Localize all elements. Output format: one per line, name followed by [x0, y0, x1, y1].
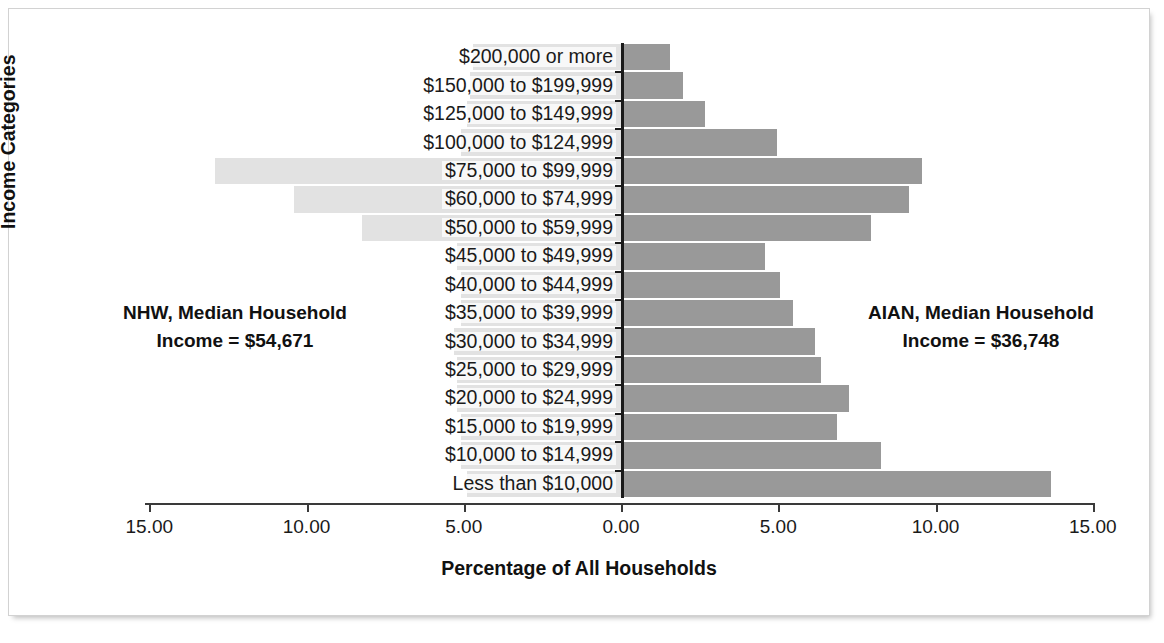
- bar-row: [145, 470, 1095, 498]
- bar-row: [145, 214, 1095, 242]
- y-axis-title: Income Categories: [0, 0, 20, 229]
- category-label: Less than $10,000: [450, 474, 616, 494]
- annotation-nhw-line2: Income = $54,671: [85, 327, 385, 355]
- category-tick: [615, 327, 622, 329]
- annotation-aian-line2: Income = $36,748: [831, 327, 1131, 355]
- category-tick: [615, 185, 622, 187]
- bar-aian: [623, 300, 793, 326]
- bar-row: [145, 413, 1095, 441]
- category-tick: [615, 157, 622, 159]
- bar-row: [145, 384, 1095, 412]
- bar-aian: [623, 72, 683, 98]
- x-tick-label: 10.00: [283, 516, 331, 538]
- bar-row: [145, 43, 1095, 71]
- bar-row: [145, 356, 1095, 384]
- x-tick: [621, 503, 623, 512]
- x-tick: [936, 503, 938, 512]
- bar-row: [145, 128, 1095, 156]
- category-label: $75,000 to $99,999: [442, 161, 616, 181]
- category-label: $45,000 to $49,999: [442, 246, 616, 266]
- category-label: $200,000 or more: [456, 47, 616, 67]
- category-tick: [615, 384, 622, 386]
- bar-aian: [623, 158, 922, 184]
- category-label: $40,000 to $44,999: [442, 275, 616, 295]
- bar-aian: [623, 243, 765, 269]
- x-axis-line: [145, 503, 1095, 505]
- x-tick-label: 15.00: [1069, 516, 1117, 538]
- bar-aian: [623, 385, 849, 411]
- category-label: $25,000 to $29,999: [442, 360, 616, 380]
- category-label: $35,000 to $39,999: [442, 303, 616, 323]
- category-tick: [615, 356, 622, 358]
- category-tick: [615, 128, 622, 130]
- x-tick-label: 5.00: [445, 516, 482, 538]
- bar-row: [145, 242, 1095, 270]
- x-axis-title: Percentage of All Households: [9, 557, 1149, 580]
- x-tick-label: 0.00: [603, 516, 640, 538]
- bar-aian: [623, 44, 670, 70]
- category-tick: [615, 100, 622, 102]
- bar-row: [145, 271, 1095, 299]
- category-tick: [615, 470, 622, 472]
- category-label: $30,000 to $34,999: [442, 332, 616, 352]
- bar-row: [145, 157, 1095, 185]
- category-label: $15,000 to $19,999: [442, 417, 616, 437]
- bar-aian: [623, 328, 815, 354]
- bar-aian: [623, 101, 705, 127]
- chart-figure: Income Categories $200,000 or more$150,0…: [8, 8, 1150, 616]
- category-label: $60,000 to $74,999: [442, 189, 616, 209]
- category-tick: [615, 299, 622, 301]
- x-tick: [307, 503, 309, 512]
- x-tick: [464, 503, 466, 512]
- category-label: $150,000 to $199,999: [420, 76, 616, 96]
- bar-aian: [623, 215, 871, 241]
- bar-row: [145, 441, 1095, 469]
- bar-row: [145, 71, 1095, 99]
- x-tick-label: 10.00: [912, 516, 960, 538]
- category-label: $125,000 to $149,999: [420, 104, 616, 124]
- annotation-aian-line1: AIAN, Median Household: [831, 299, 1131, 327]
- x-tick: [149, 503, 151, 512]
- x-tick: [778, 503, 780, 512]
- plot-area: $200,000 or more$150,000 to $199,999$125…: [145, 43, 1095, 498]
- bar-row: [145, 100, 1095, 128]
- bar-aian: [623, 471, 1051, 497]
- bar-aian: [623, 357, 821, 383]
- x-tick-label: 5.00: [760, 516, 797, 538]
- x-tick: [1093, 503, 1095, 512]
- bar-row: [145, 185, 1095, 213]
- category-label: $50,000 to $59,999: [442, 218, 616, 238]
- category-tick: [615, 441, 622, 443]
- annotation-nhw-line1: NHW, Median Household: [85, 299, 385, 327]
- category-tick: [615, 214, 622, 216]
- category-label: $100,000 to $124,999: [420, 133, 616, 153]
- bar-aian: [623, 186, 909, 212]
- category-label: $10,000 to $14,999: [442, 445, 616, 465]
- category-tick: [615, 271, 622, 273]
- category-tick: [615, 413, 622, 415]
- bar-aian: [623, 442, 881, 468]
- category-tick: [615, 71, 622, 73]
- bar-aian: [623, 272, 780, 298]
- annotation-nhw-median: NHW, Median Household Income = $54,671: [85, 299, 385, 354]
- x-tick-label: 15.00: [125, 516, 173, 538]
- bar-aian: [623, 414, 837, 440]
- category-tick: [615, 242, 622, 244]
- bar-aian: [623, 129, 777, 155]
- annotation-aian-median: AIAN, Median Household Income = $36,748: [831, 299, 1131, 354]
- category-label: $20,000 to $24,999: [442, 388, 616, 408]
